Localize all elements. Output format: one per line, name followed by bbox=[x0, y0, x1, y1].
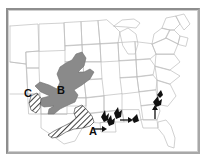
map-canvas bbox=[8, 10, 198, 152]
region-label-b: B bbox=[57, 85, 65, 96]
state-outlines bbox=[10, 14, 190, 148]
map-figure: B C A bbox=[0, 0, 206, 162]
region-label-a: A bbox=[89, 126, 97, 137]
us-map-svg bbox=[8, 10, 198, 152]
region-label-c: C bbox=[24, 88, 32, 99]
region-b-shaded-area bbox=[35, 52, 94, 114]
